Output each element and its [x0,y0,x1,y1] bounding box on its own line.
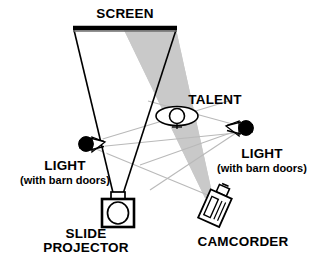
studio-setup-diagram: SCREEN TALENT LIGHT (with barn doors) [0,0,325,260]
light-left-label: LIGHT [44,158,86,173]
talent-label: TALENT [188,92,242,107]
screen-label: SCREEN [96,6,153,21]
screen [73,28,177,31]
light-right-sublabel: (with barn doors) [217,162,307,174]
light-right-label: LIGHT [241,146,283,161]
camcorder-label: CAMCORDER [197,234,288,249]
slide-projector-label-line2: PROJECTOR [43,240,129,255]
slide-projector-label-line1: SLIDE [66,226,107,241]
slide-projector [102,192,134,227]
light-left-sublabel: (with barn doors) [20,174,110,186]
